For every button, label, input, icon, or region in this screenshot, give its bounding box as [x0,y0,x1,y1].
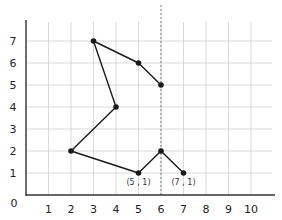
x-tick-label: 7 [180,203,187,216]
y-tick-label: 4 [10,101,17,114]
data-point-marker [136,60,142,66]
x-tick-label: 3 [90,203,97,216]
x-tick-label: 9 [225,203,232,216]
x-tick-label: 8 [203,203,210,216]
point-annotation: (5 , 1) [126,178,150,187]
origin-label: 0 [11,197,18,210]
data-point-marker [158,82,164,88]
x-tick-label: 5 [135,203,142,216]
data-point-marker [136,170,142,176]
x-tick-label: 6 [158,203,165,216]
y-tick-label: 7 [10,35,17,48]
coordinate-grid-chart: 12345678910 1234567 (5 , 1)(7 , 1) 0 [0,0,282,220]
data-point-marker [158,148,164,154]
data-point-marker [91,38,97,44]
x-tick-label: 4 [113,203,120,216]
y-tick-label: 2 [10,145,17,158]
data-point-marker [113,104,119,110]
grid-lines [26,22,272,195]
y-tick-label: 1 [10,167,17,180]
x-tick-label: 2 [68,203,75,216]
y-tick-label: 5 [10,79,17,92]
data-point-marker [181,170,187,176]
y-axis-tick-labels: 1234567 [10,35,17,180]
point-annotation: (7 , 1) [171,178,195,187]
x-tick-label: 10 [244,203,258,216]
x-tick-label: 1 [45,203,52,216]
y-tick-label: 3 [10,123,17,136]
y-tick-label: 6 [10,57,17,70]
axes [25,20,275,196]
x-axis-tick-labels: 12345678910 [45,203,258,216]
data-point-marker [68,148,74,154]
